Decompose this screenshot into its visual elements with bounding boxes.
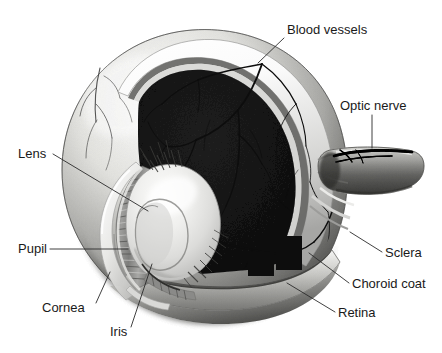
- choroid-notch-panel: [248, 252, 274, 276]
- label-sclera: Sclera: [385, 245, 423, 260]
- label-optic-nerve: Optic nerve: [340, 98, 406, 113]
- label-pupil: Pupil: [18, 241, 47, 256]
- label-iris: Iris: [110, 324, 128, 339]
- label-blood-vessels: Blood vessels: [287, 22, 368, 37]
- label-retina: Retina: [338, 305, 376, 320]
- optic-nerve-stalk: [318, 147, 424, 194]
- eye-anatomy-diagram: Blood vessels Optic nerve Lens Pupil Cor…: [0, 0, 442, 353]
- retina-notch-panel: [276, 236, 302, 270]
- label-cornea: Cornea: [42, 300, 85, 315]
- label-lens: Lens: [18, 146, 47, 161]
- label-choroid-coat: Choroid coat: [352, 276, 426, 291]
